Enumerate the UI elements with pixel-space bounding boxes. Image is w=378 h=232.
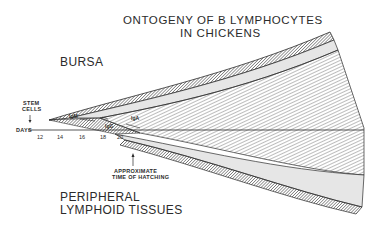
days-axis-label: DAYS [16,127,32,133]
tick-18: 18 [100,134,106,140]
peripheral-label-line-1: PERIPHERAL [60,190,140,204]
igm-label: IgM [69,113,78,119]
igg-label: IgG [105,123,113,129]
iga-label: IgA [131,115,139,121]
title-line-2: IN CHICKENS [180,27,261,39]
hatching-label-line-2: TIME OF HATCHING [112,174,169,180]
stem-cells-arrowhead [29,120,32,123]
title-line-1: ONTOGENY OF B LYMPHOCYTES [123,14,323,26]
tick-20: 20 [117,134,123,140]
hatching-arrowhead [132,153,135,157]
peripheral-label-line-2: LYMPHOID TISSUES [60,203,183,217]
tick-16: 16 [79,134,85,140]
bursa-label: BURSA [60,55,103,69]
tick-14: 14 [57,134,63,140]
stem-cells-label-line-2: CELLS [22,106,42,112]
tick-12: 12 [37,134,43,140]
